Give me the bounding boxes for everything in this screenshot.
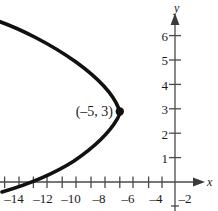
x-tick-label--2: –2 — [179, 192, 192, 205]
x-axis-label: x — [207, 176, 212, 188]
x-tick-label--8: –8 — [93, 192, 106, 205]
y-tick-label-2: 2 — [152, 127, 168, 140]
parabola-graph-figure: –14 –12 –10 –8 –6 –4 –2 1 2 3 4 5 6 y x … — [0, 0, 218, 211]
y-tick-label-6: 6 — [152, 30, 168, 43]
x-tick-label--6: –6 — [122, 192, 135, 205]
x-tick-label--12: –12 — [33, 192, 53, 205]
y-tick-label-4: 4 — [152, 78, 168, 91]
y-tick-label-1: 1 — [152, 152, 168, 165]
x-axis-arrow-icon — [193, 178, 205, 187]
vertex-point-label: (–5, 3) — [76, 105, 113, 119]
y-axis-label: y — [174, 2, 179, 14]
y-tick-label-5: 5 — [152, 54, 168, 67]
x-tick-label--4: –4 — [150, 192, 163, 205]
vertex-point-marker — [116, 107, 124, 115]
y-tick-label-3: 3 — [152, 103, 168, 116]
x-tick-label--10: –10 — [61, 192, 81, 205]
y-axis — [171, 13, 180, 211]
x-tick-label--14: –14 — [4, 192, 24, 205]
